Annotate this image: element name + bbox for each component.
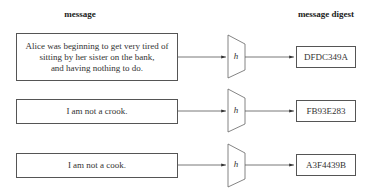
message-text-2: I am not a crook. bbox=[66, 106, 127, 117]
hash-function-label-3: h bbox=[230, 159, 242, 169]
message-line: and having nothing to do. bbox=[25, 63, 168, 74]
digest-box-3: A3F4439B bbox=[296, 154, 356, 176]
message-line: Alice was beginning to get very tired of bbox=[25, 41, 168, 52]
digest-value-1: DFDC349A bbox=[304, 52, 348, 62]
message-text-1: Alice was beginning to get very tired of… bbox=[25, 41, 168, 74]
message-box-2: I am not a crook. bbox=[16, 99, 178, 124]
message-box-3: I am not a cook. bbox=[16, 153, 178, 178]
hash-function-label-2: h bbox=[230, 105, 242, 115]
digest-box-2: FB93E283 bbox=[296, 100, 356, 122]
digest-value-2: FB93E283 bbox=[306, 106, 345, 116]
digest-box-1: DFDC349A bbox=[296, 46, 356, 68]
hash-function-label-1: h bbox=[230, 51, 242, 61]
message-line: sitting by her sister on the bank, bbox=[25, 52, 168, 63]
message-box-1: Alice was beginning to get very tired of… bbox=[16, 33, 178, 81]
message-text-3: I am not a cook. bbox=[68, 160, 126, 171]
digest-value-3: A3F4439B bbox=[306, 160, 346, 170]
